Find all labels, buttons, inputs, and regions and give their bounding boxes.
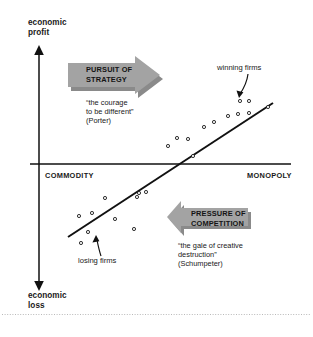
winning-firms-arrowhead xyxy=(237,91,244,99)
scatter-point xyxy=(226,114,230,118)
scatter-point xyxy=(247,99,251,103)
diagram-vector-layer xyxy=(0,0,313,337)
scatter-point xyxy=(86,230,90,234)
winning-firms-annotation: winning firms xyxy=(217,63,261,72)
figure-canvas: economic profit economic loss COMMODITY … xyxy=(0,0,313,337)
scatter-point xyxy=(137,191,141,195)
pressure-of-competition-banner-text: PRESSURE OF COMPETITION xyxy=(191,209,246,229)
y-axis-up-arrowhead xyxy=(34,45,44,55)
scatter-point xyxy=(103,196,107,200)
losing-firms-arrowhead xyxy=(92,235,99,242)
scatter-point xyxy=(79,241,83,245)
pursuit-of-strategy-quote: “the courage to be different” (Porter) xyxy=(86,98,134,125)
scatter-point xyxy=(247,111,251,115)
scatter-point xyxy=(266,105,270,109)
scatter-point xyxy=(212,120,216,124)
x-axis-left-label: COMMODITY xyxy=(45,171,94,180)
scatter-point xyxy=(113,217,117,221)
y-axis-down-arrowhead xyxy=(34,281,44,291)
scatter-point xyxy=(238,99,242,103)
scatter-point xyxy=(77,214,81,218)
pursuit-of-strategy-banner-text: PURSUIT OF STRATEGY xyxy=(86,65,132,85)
winning-firms-pointer-arrow xyxy=(240,74,248,94)
losing-firms-pointer-arrow xyxy=(97,240,101,256)
pressure-of-competition-quote: “the gale of creative destruction” (Schu… xyxy=(178,241,243,268)
scatter-point xyxy=(175,136,179,140)
scatter-point xyxy=(144,190,148,194)
y-axis-top-label: economic profit xyxy=(28,18,67,38)
scatter-point xyxy=(236,112,240,116)
scatter-point xyxy=(135,195,139,199)
x-axis-right-label: MONOPOLY xyxy=(247,171,292,180)
y-axis-bottom-label: economic loss xyxy=(28,291,67,311)
scatter-point xyxy=(191,154,195,158)
scatter-point xyxy=(186,137,190,141)
losing-firms-annotation: losing firms xyxy=(78,256,116,265)
scatter-point xyxy=(166,144,170,148)
scatter-point xyxy=(132,227,136,231)
scatter-point xyxy=(202,125,206,129)
scatter-point xyxy=(90,211,94,215)
